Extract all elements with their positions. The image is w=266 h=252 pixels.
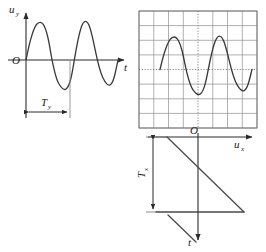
screen-grid-group bbox=[139, 11, 257, 128]
x-axis-sublabel: x bbox=[240, 145, 245, 153]
sweep-period-sublabel: x bbox=[142, 167, 150, 172]
sweep-sawtooth-ramp-second bbox=[168, 215, 196, 242]
left-plot-y-axis-sublabel: y bbox=[15, 10, 20, 18]
sweep-plot-group: T x t bbox=[135, 133, 244, 248]
left-plot-period-sublabel: y bbox=[47, 103, 52, 111]
left-plot-x-axis-label: t bbox=[124, 61, 128, 73]
sweep-sawtooth-ramp bbox=[167, 137, 244, 212]
oscilloscope-waveform-figure: u y t O T y bbox=[0, 0, 266, 252]
figure-canvas: u y t O T y bbox=[0, 0, 266, 252]
left-plot-sine-curve bbox=[26, 21, 118, 89]
left-plot-period-label: T bbox=[41, 96, 48, 108]
screen-sine-trace bbox=[160, 36, 252, 94]
left-plot-y-axis-label: u bbox=[9, 3, 15, 15]
x-axis-origin-label: O bbox=[190, 124, 198, 136]
x-axis-label: u bbox=[234, 138, 240, 150]
left-plot-origin-label: O bbox=[12, 54, 20, 66]
sweep-period-label: T bbox=[135, 171, 147, 178]
sweep-period-label-group: T x bbox=[135, 167, 150, 178]
left-plot-group: u y t O T y bbox=[8, 3, 128, 118]
